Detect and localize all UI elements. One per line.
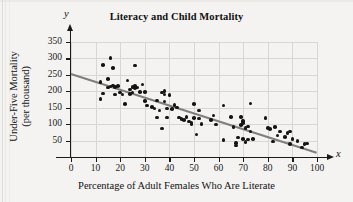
x-tick-label-40: 40 [156, 164, 182, 174]
data-point [168, 93, 172, 97]
x-tick-20 [120, 157, 121, 162]
data-point [175, 106, 179, 110]
y-axis-title: Under-Five Mortality (per thousand) [8, 31, 33, 161]
x-tick-label-20: 20 [107, 164, 133, 174]
data-point [182, 118, 186, 122]
gridline-x-100 [317, 42, 318, 157]
y-tick-label-300: 300 [36, 53, 62, 63]
x-tick-label-10: 10 [83, 164, 109, 174]
data-point [99, 97, 103, 101]
data-point [133, 64, 137, 68]
data-point [143, 90, 147, 94]
data-point [197, 109, 201, 113]
data-point [158, 109, 162, 113]
data-point [165, 107, 169, 111]
data-point [138, 90, 142, 94]
x-tick-70 [243, 157, 244, 162]
data-point [145, 104, 149, 108]
data-point [251, 137, 255, 141]
y-tick-300 [66, 58, 71, 59]
data-point [170, 107, 174, 111]
data-point [236, 136, 240, 140]
chart-title: Literacy and Child Mortality [0, 11, 353, 22]
x-tick-0 [71, 157, 72, 162]
x-tick-label-60: 60 [206, 164, 232, 174]
data-point [214, 123, 218, 127]
y-tick-label-150: 150 [36, 103, 62, 113]
data-point [155, 116, 159, 120]
data-point [288, 130, 292, 134]
data-point [271, 140, 275, 144]
y-tick-250 [66, 75, 71, 76]
x-tick-label-80: 80 [255, 164, 281, 174]
y-axis-arrow-icon [67, 24, 73, 31]
y-tick-label-50: 50 [36, 136, 62, 146]
data-point [222, 104, 226, 108]
y-tick-350 [66, 42, 71, 43]
gridline-y-350 [71, 42, 317, 43]
y-axis-variable-label: y [64, 8, 69, 19]
data-point [195, 133, 199, 137]
data-point [121, 93, 125, 97]
data-point [273, 125, 277, 129]
plot-area [71, 42, 317, 157]
y-tick-200 [66, 91, 71, 92]
data-point [278, 130, 282, 134]
data-point [232, 125, 236, 129]
data-point [200, 122, 204, 126]
data-point [165, 116, 169, 120]
y-tick-100 [66, 124, 71, 125]
data-point [212, 114, 216, 118]
data-point [249, 130, 253, 134]
x-tick-40 [169, 157, 170, 162]
data-point [192, 116, 196, 120]
x-tick-90 [292, 157, 293, 162]
x-tick-label-50: 50 [181, 164, 207, 174]
y-tick-label-250: 250 [36, 70, 62, 80]
x-tick-label-0: 0 [58, 164, 84, 174]
x-tick-label-100: 100 [304, 164, 330, 174]
data-point [305, 142, 309, 146]
data-point [288, 142, 292, 146]
data-point [222, 138, 226, 142]
x-tick-100 [317, 157, 318, 162]
gridline-y-250 [71, 75, 317, 76]
data-point [249, 102, 253, 106]
data-point [143, 99, 147, 103]
data-point [113, 93, 117, 97]
data-point [160, 127, 164, 131]
data-point [296, 139, 300, 143]
data-point [229, 115, 233, 119]
data-point [106, 77, 110, 81]
data-point [155, 99, 159, 103]
x-axis-arrow-icon [327, 154, 334, 160]
data-point [190, 121, 194, 125]
x-tick-50 [194, 157, 195, 162]
data-point [234, 141, 238, 145]
gridline-y-200 [71, 91, 317, 92]
y-tick-50 [66, 141, 71, 142]
gridline-y-100 [71, 124, 317, 125]
data-point [192, 102, 196, 106]
data-point [126, 79, 130, 83]
data-point [141, 83, 145, 87]
data-point [241, 119, 245, 123]
data-point [209, 118, 213, 122]
y-tick-label-200: 200 [36, 86, 62, 96]
data-point [264, 116, 268, 120]
data-point [291, 137, 295, 141]
gridline-y-300 [71, 58, 317, 59]
data-point [185, 115, 189, 119]
data-point [136, 86, 140, 90]
data-point [283, 135, 287, 139]
data-point [246, 125, 250, 129]
y-axis-title-line1: Under-Five Mortality [8, 31, 20, 161]
x-axis-line [56, 157, 328, 158]
y-tick-label-100: 100 [36, 119, 62, 129]
x-tick-label-70: 70 [230, 164, 256, 174]
scatter-plot-figure: Literacy and Child Mortality 50100150200… [0, 0, 353, 202]
x-tick-label-30: 30 [132, 164, 158, 174]
x-tick-10 [96, 157, 97, 162]
x-tick-30 [145, 157, 146, 162]
gridline-y-150 [71, 108, 317, 109]
